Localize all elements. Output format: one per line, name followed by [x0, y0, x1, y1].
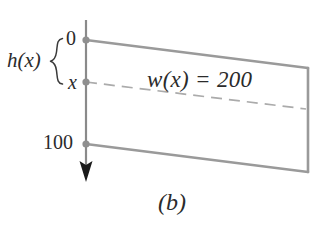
- width-function-label: w(x) = 200: [147, 68, 252, 91]
- marker-dot-hundred: [82, 140, 89, 147]
- axis-tick-label-x: x: [68, 72, 77, 92]
- axis-tick-label-hundred: 100: [43, 132, 73, 152]
- marker-dot-zero: [82, 36, 89, 43]
- depth-brace-icon: [51, 39, 63, 85]
- panel-bottom-edge: [86, 144, 308, 172]
- figure-container: h(x) 0 x 100 w(x) = 200 (b): [0, 0, 327, 226]
- figure-caption: (b): [158, 190, 186, 214]
- panel-top-edge: [86, 40, 308, 68]
- axis-tick-label-zero: 0: [66, 28, 76, 48]
- marker-dot-x: [82, 78, 89, 85]
- depth-function-label: h(x): [7, 50, 41, 71]
